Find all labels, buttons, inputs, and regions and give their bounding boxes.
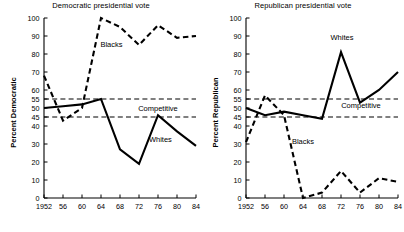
- figure-root: Democratic presidential vote Percent Dem…: [0, 0, 404, 232]
- x-tick-label: 1952: [238, 202, 254, 211]
- x-tick-label: 80: [173, 202, 181, 211]
- x-tick-label: 56: [59, 202, 67, 211]
- whites-label: Whites: [149, 135, 172, 144]
- y-tick-label: 40: [234, 122, 242, 131]
- y-tick-label: 20: [32, 158, 40, 167]
- y-tick-label: 50: [32, 104, 40, 113]
- x-tick-label: 56: [261, 202, 269, 211]
- x-tick-label: 76: [356, 202, 364, 211]
- x-tick-label: 60: [280, 202, 288, 211]
- x-tick-label: 68: [116, 202, 124, 211]
- y-tick-label: 90: [234, 32, 242, 41]
- plot-area-republican: 0102030404550556070809010019525660646872…: [202, 0, 404, 232]
- competitive-label: Competitive: [138, 104, 178, 113]
- whites-label: Whites: [330, 33, 353, 42]
- y-tick-label: 90: [32, 32, 40, 41]
- y-tick-label: 30: [32, 140, 40, 149]
- x-tick-label: 80: [375, 202, 383, 211]
- y-tick-label: 70: [234, 68, 242, 77]
- plot-svg-republican: 0102030404550556070809010019525660646872…: [202, 0, 404, 232]
- y-tick-label: 20: [234, 158, 242, 167]
- y-tick-label: 10: [32, 176, 40, 185]
- x-tick-label: 64: [97, 202, 105, 211]
- plot-area-democratic: 0102030404550556070809010019525660646872…: [0, 0, 202, 232]
- y-tick-label: 55: [234, 95, 242, 104]
- blacks-label: Blacks: [292, 137, 314, 146]
- y-tick-label: 45: [32, 113, 40, 122]
- y-tick-label: 100: [28, 14, 40, 23]
- x-tick-label: 64: [299, 202, 307, 211]
- blacks-label: Blacks: [100, 40, 122, 49]
- y-tick-label: 80: [32, 50, 40, 59]
- y-tick-label: 80: [234, 50, 242, 59]
- x-tick-label: 68: [318, 202, 326, 211]
- x-tick-label: 72: [135, 202, 143, 211]
- competitive-label: Competitive: [341, 101, 381, 110]
- y-tick-label: 40: [32, 122, 40, 131]
- x-tick-label: 60: [78, 202, 86, 211]
- y-tick-label: 55: [32, 95, 40, 104]
- y-tick-label: 60: [32, 86, 40, 95]
- y-tick-label: 70: [32, 68, 40, 77]
- y-tick-label: 45: [234, 113, 242, 122]
- plot-svg-democratic: 0102030404550556070809010019525660646872…: [0, 0, 202, 232]
- x-tick-label: 76: [154, 202, 162, 211]
- y-tick-label: 10: [234, 176, 242, 185]
- x-tick-label: 1952: [36, 202, 52, 211]
- chart-panel-republican: Republican presidential vote Percent Rep…: [202, 0, 404, 232]
- x-tick-label: 72: [337, 202, 345, 211]
- y-tick-label: 50: [234, 104, 242, 113]
- x-tick-label: 84: [192, 202, 200, 211]
- x-tick-label: 84: [394, 202, 402, 211]
- chart-panel-democratic: Democratic presidential vote Percent Dem…: [0, 0, 202, 232]
- y-tick-label: 60: [234, 86, 242, 95]
- y-tick-label: 100: [230, 14, 242, 23]
- series-line-blacks: [246, 95, 398, 198]
- y-tick-label: 30: [234, 140, 242, 149]
